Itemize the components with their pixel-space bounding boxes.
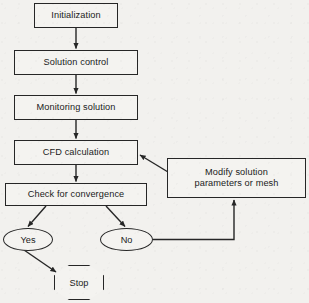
node-cfd-calculation[interactable]: CFD calculation [14,140,138,165]
node-check-convergence[interactable]: Check for convergence [5,183,147,206]
node-stop-label: Stop [70,278,89,288]
node-stop[interactable]: Stop [54,265,104,300]
edge-check-convergence-to-yes [28,206,46,227]
node-check-convergence-label: Check for convergence [28,189,125,201]
edge-modify-solution-to-cfd-calculation [140,155,168,172]
node-no[interactable]: No [100,228,153,251]
node-initialization-label: Initialization [51,10,100,22]
edge-no-to-modify-solution [153,200,234,240]
node-solution-control[interactable]: Solution control [14,50,138,75]
node-no-label: No [121,235,133,245]
node-solution-control-label: Solution control [44,57,109,69]
node-monitoring-solution[interactable]: Monitoring solution [14,95,138,120]
node-initialization[interactable]: Initialization [34,3,118,28]
node-yes[interactable]: Yes [3,228,53,251]
flowchart-canvas: Initialization Solution control Monitori… [0,0,309,303]
node-modify-solution-label: Modify solution parameters or mesh [194,167,278,190]
edge-check-convergence-to-no [106,206,125,227]
node-modify-solution[interactable]: Modify solution parameters or mesh [167,158,306,198]
node-cfd-calculation-label: CFD calculation [43,147,109,159]
node-yes-label: Yes [21,235,36,245]
edge-yes-to-stop [24,250,56,272]
node-stop-inner: Stop [55,266,103,299]
node-monitoring-solution-label: Monitoring solution [36,102,115,114]
